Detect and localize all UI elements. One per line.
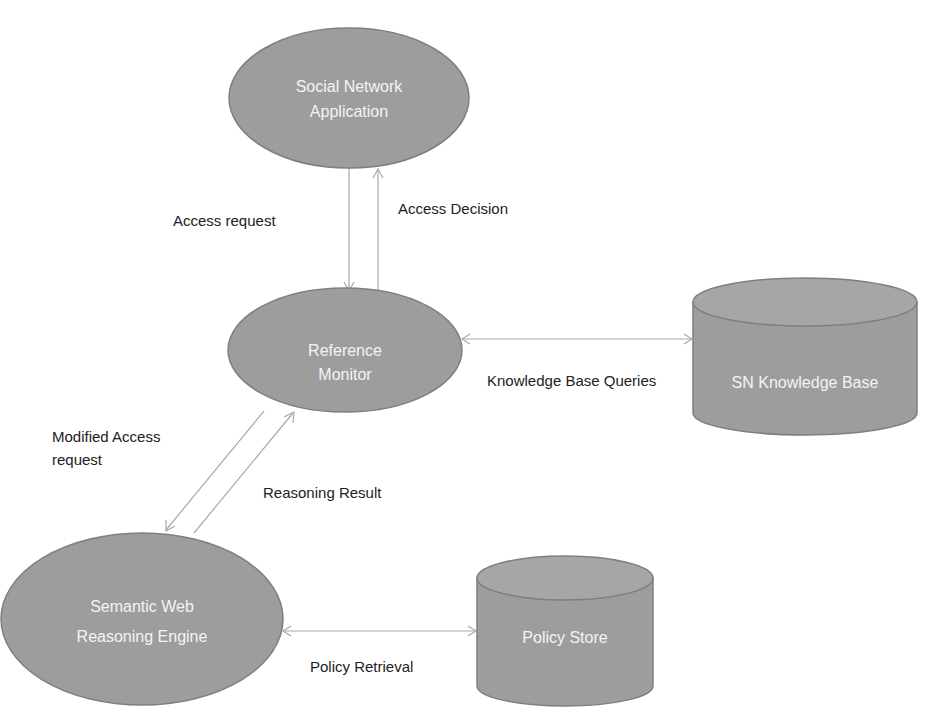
node-semantic-web-reasoning-engine: Semantic Web Reasoning Engine — [1, 533, 283, 705]
edge-label-policy-retrieval: Policy Retrieval — [310, 658, 413, 675]
node-label-line: SN Knowledge Base — [732, 374, 879, 391]
node-label-line: Reference — [308, 342, 382, 359]
edge-label-access-decision: Access Decision — [398, 200, 508, 217]
edge-reasoning-result — [194, 412, 294, 533]
node-label-line: Monitor — [318, 366, 372, 383]
node-label-line: Semantic Web — [90, 598, 194, 615]
edge-label-reasoning-result: Reasoning Result — [263, 484, 382, 501]
edge-knowledge-base-queries — [462, 334, 692, 344]
edge-policy-retrieval — [283, 626, 476, 636]
edge-access-decision — [373, 169, 383, 290]
architecture-diagram: Social Network Application Reference Mon… — [0, 0, 936, 717]
edge-label-access-request: Access request — [173, 212, 276, 229]
edge-access-request — [344, 168, 354, 291]
node-label-line: Policy Store — [522, 629, 607, 646]
node-label-line: Social Network — [296, 78, 404, 95]
edge-label-knowledge-base-queries: Knowledge Base Queries — [487, 372, 656, 389]
node-social-network-application: Social Network Application — [229, 28, 469, 168]
edge-modified-access-request — [166, 411, 264, 531]
edge-label-modified-access-request: request — [52, 451, 103, 468]
node-reference-monitor: Reference Monitor — [228, 288, 462, 412]
node-label-line: Reasoning Engine — [77, 628, 208, 645]
edge-label-modified-access-request: Modified Access — [52, 428, 160, 445]
node-sn-knowledge-base: SN Knowledge Base — [693, 278, 917, 435]
node-label-line: Application — [310, 103, 388, 120]
node-policy-store: Policy Store — [477, 556, 653, 706]
